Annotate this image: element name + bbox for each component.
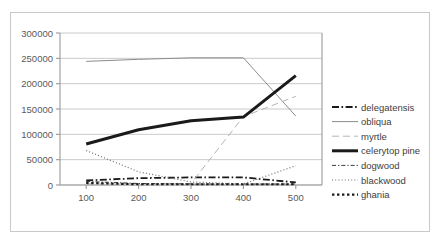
legend-label-dogwood: dogwood xyxy=(361,160,400,171)
y-axis-tick-label: 0 xyxy=(48,180,53,191)
legend-label-myrtle: myrtle xyxy=(361,131,387,142)
chart-legend[interactable]: delegatensisobliquamyrtlecelerytop pined… xyxy=(332,102,420,201)
legend-item-ghania[interactable]: ghania xyxy=(332,189,390,200)
data-series-lines xyxy=(86,58,296,184)
y-axis-tick-label: 50000 xyxy=(27,154,53,165)
x-axis-tick-label: 300 xyxy=(183,192,199,203)
series-line-obliqua xyxy=(86,58,296,116)
chart-container: 050000100000150000200000250000300000 100… xyxy=(0,0,440,250)
legend-item-dogwood[interactable]: dogwood xyxy=(332,160,400,171)
x-axis-tick-label: 400 xyxy=(235,192,251,203)
y-axis-ticks xyxy=(56,33,60,185)
legend-label-ghania: ghania xyxy=(361,189,390,200)
y-axis-tick-label: 150000 xyxy=(21,104,53,115)
y-axis-tick-label: 200000 xyxy=(21,78,53,89)
x-axis-tick-label: 100 xyxy=(78,192,94,203)
series-line-delegatensis xyxy=(86,177,296,182)
legend-label-celerytop-pine: celerytop pine xyxy=(361,145,420,156)
legend-label-obliqua: obliqua xyxy=(361,116,392,127)
x-axis-ticks xyxy=(86,185,296,189)
x-axis-tick-labels: 100200300400500 xyxy=(78,192,303,203)
x-axis-tick-label: 200 xyxy=(131,192,147,203)
series-line-myrtle xyxy=(86,96,296,184)
y-axis-tick-label: 250000 xyxy=(21,53,53,64)
series-line-celerytop-pine xyxy=(86,76,296,144)
y-axis-tick-label: 100000 xyxy=(21,129,53,140)
legend-item-myrtle[interactable]: myrtle xyxy=(332,131,387,142)
legend-item-celerytop-pine[interactable]: celerytop pine xyxy=(332,145,420,156)
y-axis-tick-labels: 050000100000150000200000250000300000 xyxy=(21,28,53,191)
legend-label-blackwood: blackwood xyxy=(361,175,406,186)
legend-item-blackwood[interactable]: blackwood xyxy=(332,175,406,186)
legend-label-delegatensis: delegatensis xyxy=(361,102,415,113)
grid-lines xyxy=(60,33,322,185)
y-axis-tick-label: 300000 xyxy=(21,28,53,39)
legend-item-delegatensis[interactable]: delegatensis xyxy=(332,102,415,113)
x-axis-tick-label: 500 xyxy=(288,192,304,203)
legend-item-obliqua[interactable]: obliqua xyxy=(332,116,392,127)
chart-plot-svg: 050000100000150000200000250000300000 100… xyxy=(0,0,440,250)
